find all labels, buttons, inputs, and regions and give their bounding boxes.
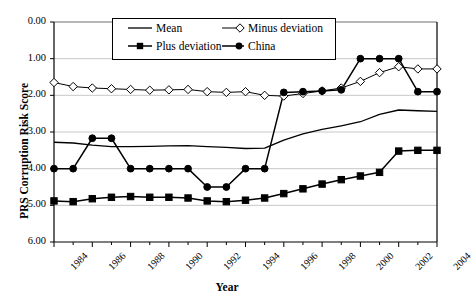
y-tick-label: 6.00 <box>12 235 46 246</box>
x-axis-label: Year <box>0 281 454 293</box>
y-tick-label: 1.00 <box>12 52 46 63</box>
y-tick-label: 2.00 <box>12 88 46 99</box>
y-tick-label: 5.00 <box>12 198 46 209</box>
y-tick-label: 0.00 <box>12 15 46 26</box>
legend-label-plus-deviation: Plus deviation <box>156 40 222 52</box>
legend-label-mean: Mean <box>156 22 182 34</box>
legend-label-china: China <box>248 40 275 52</box>
legend-label-minus-deviation: Minus deviation <box>248 22 323 34</box>
x-tick-label: 2004 <box>451 250 473 272</box>
y-tick-label: 3.00 <box>12 125 46 136</box>
y-tick-label: 4.00 <box>12 162 46 173</box>
